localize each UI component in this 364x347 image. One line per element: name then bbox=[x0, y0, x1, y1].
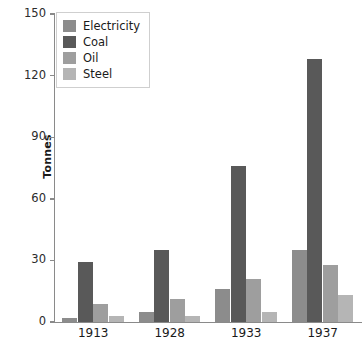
x-axis-labels: 1913192819331937 bbox=[55, 326, 361, 346]
y-tick-label: 120 bbox=[24, 68, 46, 82]
bar-coal-1928[interactable] bbox=[154, 250, 169, 322]
bar-coal-1937[interactable] bbox=[307, 59, 322, 322]
legend-swatch-icon bbox=[63, 68, 76, 80]
legend-label: Coal bbox=[83, 35, 108, 49]
y-tick-label: 0 bbox=[39, 314, 46, 328]
bar-oil-1933[interactable] bbox=[246, 279, 261, 322]
x-tick-label-1933: 1933 bbox=[208, 326, 285, 340]
bar-steel-1928[interactable] bbox=[185, 316, 200, 322]
bar-oil-1913[interactable] bbox=[93, 304, 108, 322]
legend-swatch-icon bbox=[63, 36, 76, 48]
bar-group-1933 bbox=[215, 14, 277, 322]
legend-swatch-icon bbox=[63, 52, 76, 64]
bar-coal-1913[interactable] bbox=[78, 262, 93, 322]
bar-electricity-1928[interactable] bbox=[139, 312, 154, 322]
y-tick-label: 150 bbox=[24, 6, 46, 20]
y-tick-label: 30 bbox=[31, 252, 46, 266]
legend-item-steel[interactable]: Steel bbox=[63, 66, 140, 82]
bar-electricity-1933[interactable] bbox=[215, 289, 230, 322]
legend-item-oil[interactable]: Oil bbox=[63, 50, 140, 66]
bar-oil-1937[interactable] bbox=[323, 265, 338, 322]
bar-electricity-1913[interactable] bbox=[62, 318, 77, 322]
x-axis-line bbox=[54, 322, 362, 323]
legend-label: Steel bbox=[83, 67, 112, 81]
bar-group-1937 bbox=[292, 14, 354, 322]
x-tick-label-1913: 1913 bbox=[55, 326, 132, 340]
y-tick-label: 90 bbox=[31, 129, 46, 143]
legend-item-electricity[interactable]: Electricity bbox=[63, 18, 140, 34]
bar-steel-1913[interactable] bbox=[109, 316, 124, 322]
y-axis-ticks: 0306090120150 bbox=[0, 14, 55, 322]
legend-swatch-icon bbox=[63, 20, 76, 32]
x-tick-label-1937: 1937 bbox=[285, 326, 362, 340]
bar-coal-1933[interactable] bbox=[231, 166, 246, 322]
bar-steel-1933[interactable] bbox=[262, 312, 277, 322]
chart-legend: ElectricityCoalOilSteel bbox=[56, 12, 150, 88]
legend-label: Electricity bbox=[83, 19, 140, 33]
bar-steel-1937[interactable] bbox=[338, 295, 353, 322]
bar-electricity-1937[interactable] bbox=[292, 250, 307, 322]
legend-item-coal[interactable]: Coal bbox=[63, 34, 140, 50]
x-tick-label-1928: 1928 bbox=[132, 326, 209, 340]
bar-chart: Tonnes 0306090120150 1913192819331937 El… bbox=[0, 0, 364, 347]
y-tick-label: 60 bbox=[31, 191, 46, 205]
legend-label: Oil bbox=[83, 51, 98, 65]
bar-oil-1928[interactable] bbox=[170, 299, 185, 322]
